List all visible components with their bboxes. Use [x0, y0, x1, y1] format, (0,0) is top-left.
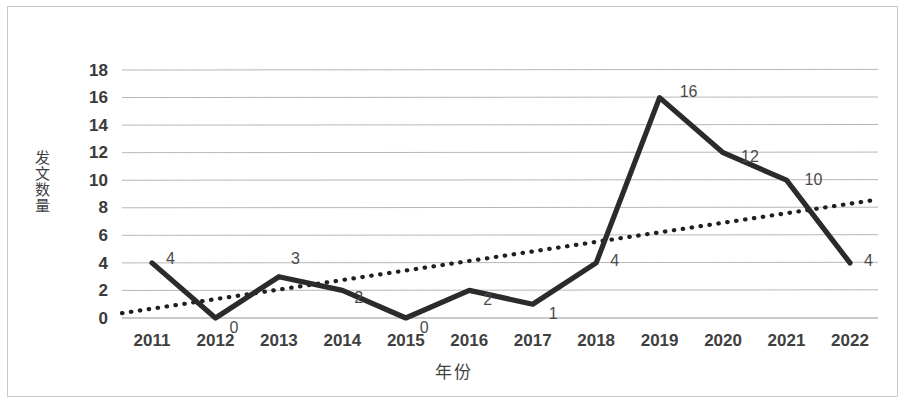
gridline: [122, 69, 878, 70]
data-label-2014: 2: [354, 290, 363, 306]
data-label-2019: 16: [680, 84, 698, 100]
x-axis-tick-2019: 2019: [625, 332, 695, 349]
x-axis-tick-2022: 2022: [815, 332, 885, 349]
gridline: [122, 125, 878, 126]
y-axis-tick-2: 2: [74, 282, 108, 299]
y-axis-tick-14: 14: [74, 117, 108, 134]
x-axis-tick-2015: 2015: [371, 332, 441, 349]
data-label-2012: 0: [229, 320, 238, 336]
y-axis-tick-0: 0: [74, 310, 108, 327]
gridlines: [122, 69, 878, 318]
data-label-2016: 2: [483, 292, 492, 308]
x-axis-tick-2016: 2016: [434, 332, 504, 349]
data-label-2021: 10: [805, 172, 823, 188]
x-axis-title: 年份: [419, 358, 489, 383]
x-axis-tick-2013: 2013: [244, 332, 314, 349]
x-axis-tick-2012: 2012: [180, 332, 250, 349]
gridline: [122, 207, 878, 208]
x-axis-tick-2021: 2021: [752, 332, 822, 349]
y-axis-tick-16: 16: [74, 89, 108, 106]
data-label-2022: 4: [864, 253, 873, 269]
y-axis-tick-18: 18: [74, 62, 108, 79]
data-label-2017: 1: [549, 306, 558, 322]
gridline: [122, 152, 878, 153]
data-label-2015: 0: [420, 320, 429, 336]
y-axis-tick-10: 10: [74, 172, 108, 189]
y-axis-title: 发文数量: [30, 150, 52, 214]
y-axis-tick-8: 8: [74, 199, 108, 216]
gridline: [122, 97, 878, 98]
x-axis-tick-2014: 2014: [307, 332, 377, 349]
x-axis-tick-2011: 2011: [117, 332, 187, 349]
gridline: [122, 262, 878, 263]
x-axis-tick-2017: 2017: [498, 332, 568, 349]
data-label-2020: 12: [741, 149, 759, 165]
data-label-2013: 3: [291, 251, 300, 267]
data-label-2018: 4: [610, 253, 619, 269]
x-axis-tick-2020: 2020: [688, 332, 758, 349]
x-axis-tick-2018: 2018: [561, 332, 631, 349]
chart-screenshot: 18 16 14 12 10 8 6 4 2 0 发文数量 年份 2011201…: [0, 0, 908, 405]
gridline: [122, 290, 878, 291]
data-label-2011: 4: [166, 251, 175, 267]
gridline: [122, 235, 878, 236]
gridline: [122, 180, 878, 181]
y-axis-tick-4: 4: [74, 255, 108, 272]
y-axis-tick-6: 6: [74, 227, 108, 244]
y-axis-tick-12: 12: [74, 144, 108, 161]
